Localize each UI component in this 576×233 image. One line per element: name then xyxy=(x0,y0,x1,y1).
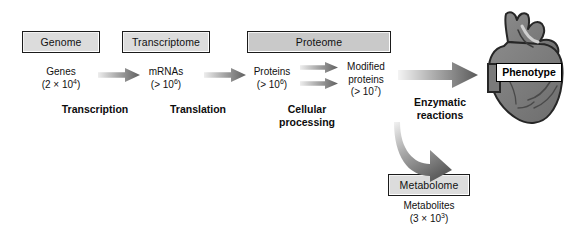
box-transcriptome: Transcriptome xyxy=(122,31,210,53)
box-transcriptome-label: Transcriptome xyxy=(132,37,200,48)
count-genes: Genes (2 × 104) xyxy=(17,66,105,91)
box-proteome-label: Proteome xyxy=(296,37,342,48)
box-genome-label: Genome xyxy=(41,37,82,48)
box-phenotype: Phenotype xyxy=(496,63,562,82)
count-genes-value: (2 × 104) xyxy=(17,79,105,92)
arrow-enzymatic-reactions-icon xyxy=(398,62,478,88)
arrow-cellular-processing-lower-icon xyxy=(300,78,338,89)
process-label-cellular-processing: Cellular processing xyxy=(268,103,346,128)
process-label-enzymatic-reactions: Enzymatic reactions xyxy=(394,96,486,121)
box-phenotype-label: Phenotype xyxy=(502,67,556,78)
process-cellular-line1: Cellular xyxy=(268,103,346,116)
arrow-cellular-processing-upper-icon xyxy=(300,62,338,73)
arrow-transcription-icon xyxy=(98,68,140,82)
omics-flow-diagram: Genome Transcriptome Proteome Metabolome… xyxy=(0,0,576,233)
count-metabolites: Metabolites (3 × 103) xyxy=(385,200,473,225)
arrow-metabolome-curved-icon xyxy=(398,120,454,182)
count-metabolites-value: (3 × 103) xyxy=(385,213,473,226)
box-genome: Genome xyxy=(22,31,100,53)
process-enzymatic-line1: Enzymatic xyxy=(394,96,486,109)
box-proteome: Proteome xyxy=(247,31,391,53)
count-genes-name: Genes xyxy=(17,66,105,79)
arrow-translation-icon xyxy=(204,68,246,82)
count-metabolites-name: Metabolites xyxy=(385,200,473,213)
process-label-transcription: Transcription xyxy=(40,103,150,116)
process-label-translation: Translation xyxy=(148,103,248,116)
process-cellular-line2: processing xyxy=(268,116,346,129)
